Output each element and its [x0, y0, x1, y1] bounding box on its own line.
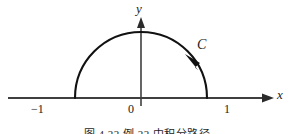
curve-label-c: C: [197, 38, 206, 52]
y-axis-label: y: [136, 2, 142, 15]
x-axis-arrowhead: [262, 94, 274, 103]
figure-caption: 图 4.22 例 22 中积分路径: [0, 125, 294, 134]
x-axis-label: x: [277, 88, 283, 101]
semicircle-plot: [0, 0, 294, 134]
x-tick-label-one: 1: [224, 103, 230, 115]
x-tick-label-negative-one: −1: [31, 103, 44, 115]
figure-container: y x C −1 0 1 图 4.22 例 22 中积分路径: [0, 0, 294, 134]
x-tick-label-origin: 0: [128, 103, 134, 115]
y-axis-arrowhead: [137, 17, 145, 28]
